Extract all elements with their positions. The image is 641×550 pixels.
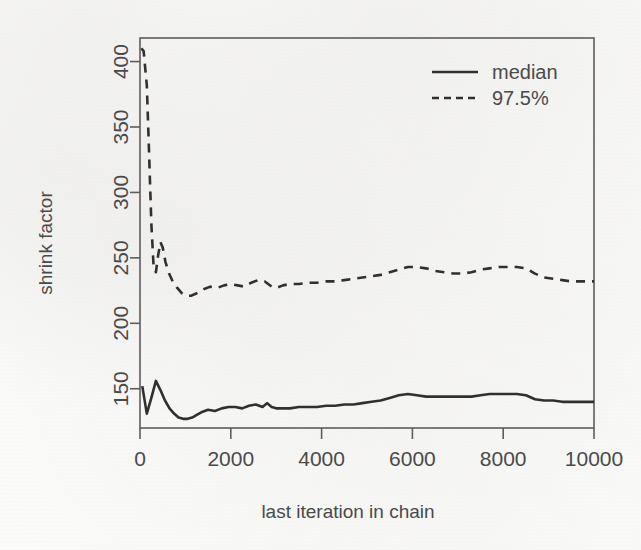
chart-legend: median97.5%	[432, 61, 558, 109]
y-tick-label: 350	[110, 109, 133, 144]
x-tick-label: 4000	[298, 447, 345, 470]
y-axis-title: shrink factor	[35, 191, 56, 295]
y-tick-label: 200	[110, 306, 133, 341]
y-tick-label: 150	[110, 371, 133, 406]
y-tick-label: 250	[110, 240, 133, 275]
series-median	[142, 381, 594, 419]
x-tick-label: 6000	[389, 447, 436, 470]
y-tick-label: 400	[110, 44, 133, 79]
y-axis-ticks: 150200250300350400	[110, 44, 141, 406]
y-tick-label: 300	[110, 175, 133, 210]
shrink-factor-chart: 150200250300350400 020004000600080001000…	[0, 0, 641, 550]
figure-page: 150200250300350400 020004000600080001000…	[0, 0, 641, 550]
x-tick-label: 0	[134, 447, 146, 470]
x-axis-ticks: 0200040006000800010000	[134, 428, 623, 470]
legend-label-1: 97.5%	[492, 87, 549, 109]
x-tick-label: 2000	[207, 447, 254, 470]
series-97-5-	[141, 48, 594, 295]
legend-label-0: median	[492, 61, 558, 83]
x-tick-label: 10000	[565, 447, 623, 470]
x-tick-label: 8000	[480, 447, 527, 470]
x-axis-title: last iteration in chain	[261, 501, 434, 522]
